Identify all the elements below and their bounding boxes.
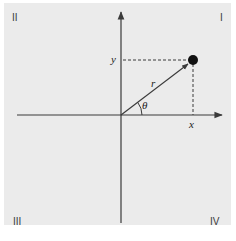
angle-theta-label: θ	[142, 99, 148, 111]
point-marker	[188, 55, 198, 65]
quadrant-label-iii: III	[13, 216, 21, 227]
radius-label: r	[151, 77, 156, 89]
y-coordinate-label: y	[110, 53, 116, 65]
radius-vector	[121, 64, 188, 115]
quadrant-label-ii: II	[12, 12, 18, 23]
quadrant-label-iv: IV	[210, 216, 220, 227]
x-coordinate-label: x	[188, 118, 194, 130]
quadrant-label-i: I	[220, 12, 223, 23]
polar-coordinate-diagram: II I III IV y x r θ	[0, 0, 236, 241]
